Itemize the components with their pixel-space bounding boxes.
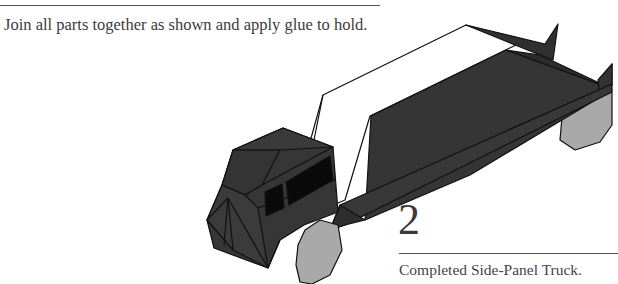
caption-divider — [399, 253, 618, 254]
step-number: 2 — [398, 198, 420, 242]
front-wheel — [296, 220, 342, 284]
truck-illustration — [0, 0, 618, 284]
figure-caption: Completed Side-Panel Truck. — [399, 261, 582, 279]
